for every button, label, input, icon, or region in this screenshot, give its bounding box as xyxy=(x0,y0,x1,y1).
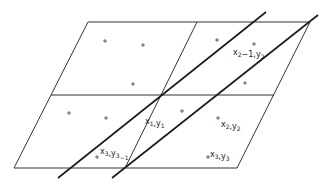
plus-marker-icon xyxy=(104,116,108,120)
plus-marker-icon xyxy=(103,39,107,43)
plus-marker-icon xyxy=(141,43,145,47)
parallelogram-grid-diagram: x1,y1x2,y2x3,y3x2−1,y2x3,y3−1 xyxy=(0,0,330,189)
plus-marker-icon xyxy=(95,155,99,159)
point-label-p4: x2−1,y2 xyxy=(233,48,265,60)
plus-markers xyxy=(67,38,256,159)
plus-marker-icon xyxy=(215,38,219,42)
plus-marker-icon xyxy=(67,111,71,115)
plus-marker-icon xyxy=(216,116,220,120)
plus-marker-icon xyxy=(131,82,135,86)
plus-marker-icon xyxy=(180,109,184,113)
point-label-p5: x3,y3−1 xyxy=(100,147,129,161)
point-label-p3: x3,y3 xyxy=(210,150,230,162)
plus-marker-icon xyxy=(243,81,247,85)
point-labels: x1,y1x2,y2x3,y3x2−1,y2x3,y3−1 xyxy=(100,48,265,162)
point-label-p1: x1,y1 xyxy=(145,117,165,129)
point-label-p2: x2,y2 xyxy=(221,120,241,132)
plus-marker-icon xyxy=(252,42,256,46)
